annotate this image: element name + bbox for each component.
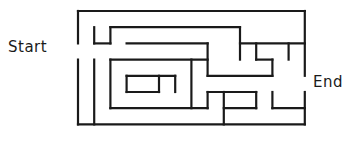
maze-figure: Start End	[0, 0, 356, 141]
maze-wall-group	[78, 11, 305, 124]
maze-grid	[0, 0, 356, 141]
